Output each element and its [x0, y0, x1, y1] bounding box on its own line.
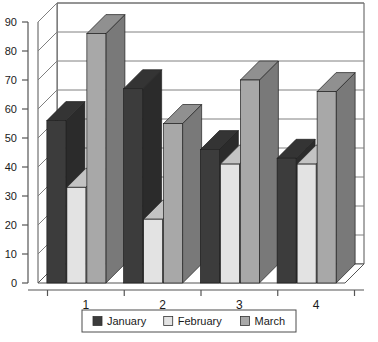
chart-canvas: 0102030405060708090 1234 JanuaryFebruary… [0, 0, 378, 342]
bar-front-face [297, 164, 316, 283]
bar-front-face [124, 89, 143, 283]
legend-swatch-march [241, 317, 250, 326]
y-axis-tick-label: 20 [5, 219, 17, 231]
bar-side-face [183, 105, 202, 284]
bar [240, 61, 278, 283]
bar-front-face [220, 164, 239, 283]
y-axis-tick-label: 60 [5, 103, 17, 115]
y-axis: 0102030405060708090 [5, 16, 28, 289]
bar-front-face [240, 80, 259, 283]
bar-front-face [164, 124, 183, 284]
bar-side-face [259, 61, 278, 283]
bar-side-face [336, 73, 355, 283]
bar [87, 15, 125, 283]
bar-front-face [317, 92, 336, 283]
chart-legend: JanuaryFebruaryMarch [82, 310, 296, 332]
bar-front-face [87, 34, 106, 283]
y-axis-tick-label: 30 [5, 190, 17, 202]
y-axis-tick-label: 10 [5, 248, 17, 260]
bar-front-face [144, 219, 163, 283]
bar [164, 105, 202, 284]
legend-label-march: March [255, 315, 286, 327]
bar-side-face [106, 15, 125, 283]
legend-label-january: January [107, 315, 147, 327]
legend-swatch-january [93, 317, 102, 326]
legend-swatch-february [164, 317, 173, 326]
x-axis: 1234 [28, 290, 364, 312]
bar-chart: 0102030405060708090 1234 JanuaryFebruary… [0, 0, 378, 342]
x-axis-category-label: 4 [313, 298, 320, 312]
y-axis-tick-label: 40 [5, 161, 17, 173]
bar-front-face [200, 150, 219, 283]
y-axis-tick-label: 80 [5, 45, 17, 57]
bar-front-face [47, 121, 66, 283]
bar-front-face [277, 158, 296, 283]
bar-front-face [67, 187, 86, 283]
bar [317, 73, 355, 283]
y-axis-tick-label: 0 [11, 277, 17, 289]
legend-label-february: February [178, 315, 223, 327]
y-axis-tick-label: 90 [5, 16, 17, 28]
y-axis-tick-label: 50 [5, 132, 17, 144]
y-axis-tick-label: 70 [5, 74, 17, 86]
